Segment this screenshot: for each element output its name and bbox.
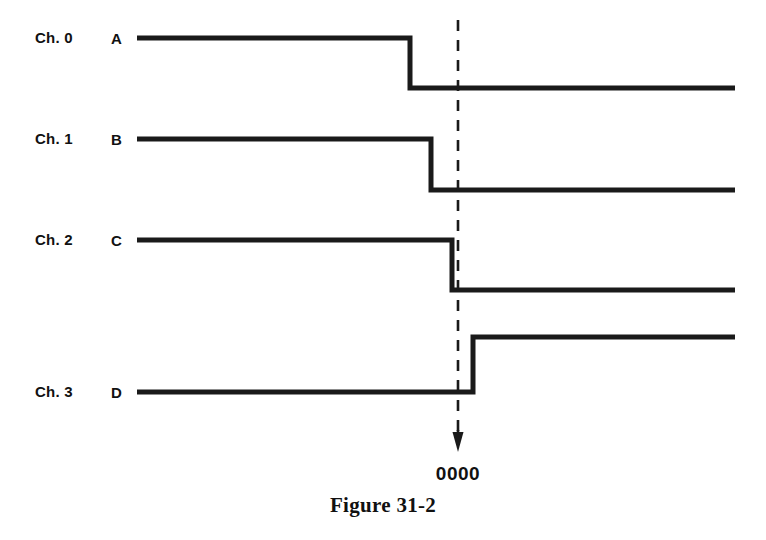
timing-diagram-figure: Ch. 0 A Ch. 1 B Ch. 2 C Ch. 3 D 0000 Fig… [0,0,766,540]
signal-label-c: C [111,233,122,248]
channel-label-ch3: Ch. 3 [35,384,73,399]
waveform-ch3 [137,337,735,392]
timing-waveform-canvas [0,0,766,540]
marker-arrowhead-icon [453,432,464,452]
signal-label-d: D [111,385,122,400]
signal-label-a: A [111,31,122,46]
waveform-ch0 [137,38,735,88]
marker-value-label: 0000 [0,464,766,483]
channel-label-ch0: Ch. 0 [35,30,73,45]
figure-caption: Figure 31-2 [0,495,766,516]
channel-label-ch1: Ch. 1 [35,131,73,146]
signal-label-b: B [111,132,122,147]
channel-label-ch2: Ch. 2 [35,232,73,247]
waveform-ch1 [137,139,735,190]
marker-value-text: 0000 [436,463,480,484]
waveform-ch2 [137,240,735,290]
